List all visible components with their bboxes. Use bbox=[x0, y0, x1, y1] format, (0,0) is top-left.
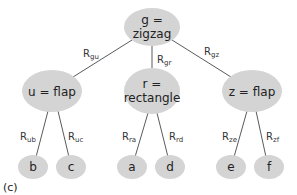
node-c: c bbox=[56, 155, 86, 179]
node-b: b bbox=[18, 155, 48, 179]
edge-r-d bbox=[157, 113, 168, 157]
edge-label-gr: Rgr bbox=[157, 54, 171, 67]
edge-label-gu: Rgu bbox=[83, 48, 99, 61]
node-b-label: b bbox=[29, 160, 37, 174]
node-r-line2: rectangle bbox=[124, 91, 181, 105]
node-r: r = rectangle bbox=[124, 68, 181, 114]
edge-label-ub: Rub bbox=[20, 131, 36, 144]
node-u: u = flap bbox=[22, 70, 82, 112]
node-a: a bbox=[117, 155, 147, 179]
edge-label-ze: Rze bbox=[222, 131, 237, 144]
node-z-label: z = flap bbox=[229, 85, 276, 99]
edge-label-uc: Ruc bbox=[68, 131, 83, 144]
node-a-label: a bbox=[128, 160, 135, 174]
node-r-line1: r = bbox=[143, 77, 162, 91]
node-d-label: d bbox=[166, 160, 174, 174]
edge-label-gz: Rgz bbox=[204, 46, 219, 59]
node-e: e bbox=[216, 155, 246, 179]
edge-z-f bbox=[256, 111, 266, 157]
edge-z-e bbox=[234, 111, 247, 157]
tree-diagram: g = zigzag u = flap r = rectangle z = fl… bbox=[0, 0, 297, 195]
edge-u-b bbox=[36, 111, 48, 157]
node-e-label: e bbox=[227, 160, 234, 174]
node-c-label: c bbox=[68, 160, 75, 174]
node-g: g = zigzag bbox=[124, 8, 180, 46]
node-g-line2: zigzag bbox=[133, 27, 172, 41]
figure-caption: (c) bbox=[3, 181, 18, 194]
node-z: z = flap bbox=[222, 70, 282, 112]
node-d: d bbox=[155, 155, 185, 179]
edge-label-rd: Rrd bbox=[169, 131, 183, 144]
node-u-label: u = flap bbox=[28, 85, 76, 99]
edge-g-z bbox=[172, 40, 231, 77]
edge-label-zf: Rzf bbox=[266, 131, 280, 144]
edge-r-a bbox=[135, 113, 148, 157]
node-g-line1: g = bbox=[141, 13, 163, 27]
edge-g-u bbox=[73, 40, 132, 77]
node-f: f bbox=[254, 155, 284, 179]
edge-label-ra: Rra bbox=[122, 131, 136, 144]
